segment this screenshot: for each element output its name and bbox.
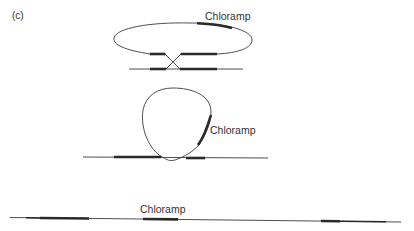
recombination-diagram: (c) Chloramp Chloramp xyxy=(0,0,414,231)
stage-2-crossover-intermediate: Chloramp xyxy=(83,88,268,161)
panel-label: (c) xyxy=(12,10,24,21)
plasmid-loop xyxy=(142,88,211,161)
chloramp-label-plasmid: Chloramp xyxy=(205,10,251,22)
chloramp-label-loop: Chloramp xyxy=(210,124,256,136)
chloramp-marker-plasmid xyxy=(197,23,232,28)
homology-block-stage3-right-tail xyxy=(340,221,386,222)
chloramp-label-integrated: Chloramp xyxy=(140,203,186,215)
crossover-line-b xyxy=(166,54,181,69)
homology-block-stage3-left xyxy=(40,218,89,219)
stage-1-plasmid-alignment: Chloramp xyxy=(114,10,252,69)
stage-3-integrated-chromosome: Chloramp xyxy=(10,203,401,222)
crossover-line-a xyxy=(165,54,180,69)
chromosome-line-stage2 xyxy=(83,157,268,158)
